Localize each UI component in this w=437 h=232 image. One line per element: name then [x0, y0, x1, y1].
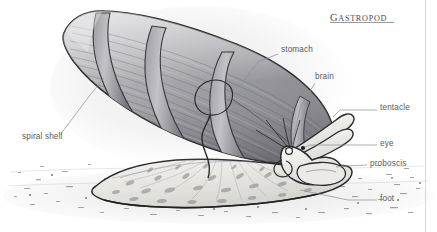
title-underline: [330, 22, 394, 23]
label-foot: foot: [380, 195, 394, 203]
label-tentacle: tentacle: [380, 104, 410, 112]
gastropod-illustration-figure: GASTROPOD spiral shell stomach brain ten…: [0, 0, 437, 232]
label-proboscis: proboscis: [370, 160, 406, 168]
plate-edge-rule: [425, 0, 426, 232]
proboscis-organ: [297, 162, 345, 185]
label-brain: brain: [315, 73, 334, 81]
snail-anatomy-artwork: [0, 0, 437, 232]
label-eye: eye: [380, 140, 394, 148]
label-stomach: stomach: [281, 46, 313, 54]
eye-spot: [301, 146, 305, 150]
label-spiral-shell: spiral shell: [22, 133, 62, 141]
